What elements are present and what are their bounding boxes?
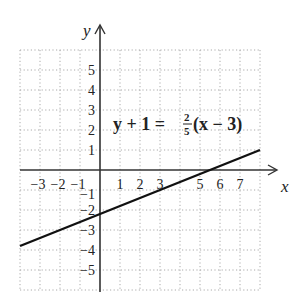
- equation-lhs: y + 1 =: [113, 114, 165, 134]
- coordinate-plane: x y −3−2−112356754321−1−2−3−4−5 y + 1 = …: [0, 0, 297, 302]
- x-tick-label: 2: [137, 177, 144, 192]
- x-tick-label: −2: [51, 177, 66, 192]
- x-tick-label: 7: [237, 177, 244, 192]
- equation-annotation: y + 1 = 2 5 (x − 3): [113, 111, 242, 137]
- x-tick-label: −3: [31, 177, 46, 192]
- x-tick-label: 1: [117, 177, 124, 192]
- y-axis-label: y: [81, 21, 91, 40]
- fraction-denominator: 5: [184, 125, 190, 137]
- graph-figure: x y −3−2−112356754321−1−2−3−4−5 y + 1 = …: [0, 0, 297, 302]
- y-tick-label: −1: [80, 187, 95, 202]
- y-tick-label: 2: [88, 123, 95, 138]
- y-tick-label: −5: [80, 263, 95, 278]
- x-axis-label: x: [280, 177, 289, 196]
- y-tick-label: 5: [88, 63, 95, 78]
- equation-line: [20, 150, 260, 246]
- x-tick-label: 5: [197, 177, 204, 192]
- equation-rhs: (x − 3): [193, 114, 242, 135]
- y-tick-label: −3: [80, 223, 95, 238]
- y-tick-label: 4: [88, 83, 95, 98]
- y-tick-label: 3: [88, 103, 95, 118]
- y-tick-label: −4: [80, 243, 95, 258]
- fraction-numerator: 2: [184, 111, 190, 123]
- x-tick-label: 6: [217, 177, 224, 192]
- y-tick-label: 1: [88, 143, 95, 158]
